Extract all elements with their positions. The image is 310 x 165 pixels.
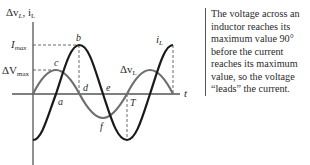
- voltage-current-chart: ΔvL, iL Imax ΔVmax b c a d e f T t iL Δv…: [0, 0, 200, 165]
- voltage-series-label: ΔvL: [120, 63, 137, 77]
- y-axis-label: ΔvL, iL: [6, 6, 35, 20]
- figure-caption: The voltage across an inductor reaches i…: [205, 8, 310, 96]
- point-c-label: c: [54, 57, 59, 68]
- imax-label: Imax: [10, 38, 27, 52]
- point-d-label: d: [83, 82, 89, 93]
- t-axis-label: t: [184, 87, 188, 99]
- point-f-label: f: [100, 121, 104, 132]
- period-T-label: T: [130, 97, 137, 108]
- current-series-label: iL: [156, 33, 163, 47]
- vmax-label: ΔVmax: [2, 64, 30, 78]
- point-a-label: a: [58, 96, 63, 107]
- point-b-label: b: [76, 32, 81, 43]
- point-e-label: e: [106, 82, 111, 93]
